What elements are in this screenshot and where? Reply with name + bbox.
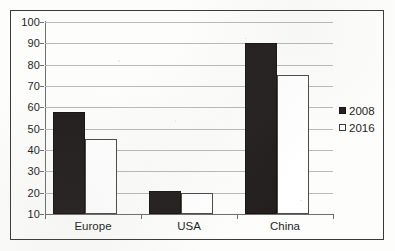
y-axis-tick <box>40 65 44 66</box>
bar-usa-2008 <box>149 191 181 214</box>
y-axis-tick <box>40 214 44 215</box>
scanned-page: 100908070605040302010 EuropeUSAChina 200… <box>0 0 395 251</box>
bar-europe-2016 <box>85 139 117 214</box>
bar-europe-2008 <box>53 112 85 214</box>
bar-china-2008 <box>245 43 277 214</box>
y-axis-tick <box>40 22 44 23</box>
x-axis-labels: EuropeUSAChina <box>45 219 334 239</box>
bar-usa-2016 <box>181 193 213 214</box>
y-axis-labels: 100908070605040302010 <box>7 22 40 214</box>
plot-area <box>45 22 333 214</box>
x-axis-label-europe: Europe <box>45 219 141 233</box>
y-axis-tick-label: 30 <box>10 166 40 177</box>
legend-label: 2016 <box>349 122 375 134</box>
y-axis-tick-label: 40 <box>10 145 40 156</box>
y-axis-tick <box>40 150 44 151</box>
y-axis-tick <box>40 193 44 194</box>
gridline-80 <box>45 65 333 66</box>
y-axis-tick <box>40 43 44 44</box>
y-axis-tick <box>40 107 44 108</box>
y-axis-tick <box>40 129 44 130</box>
hollow-square-icon <box>339 124 346 131</box>
y-axis-tick-label: 10 <box>10 209 40 220</box>
y-axis-tick-label: 80 <box>10 60 40 71</box>
legend-label: 2008 <box>349 105 375 117</box>
filled-square-icon <box>339 107 346 114</box>
bar-china-2016 <box>277 75 309 214</box>
legend-item-2008: 2008 <box>339 103 385 118</box>
y-axis-tick-label: 100 <box>10 17 40 28</box>
x-axis-label-usa: USA <box>141 219 237 233</box>
y-axis-tick <box>40 86 44 87</box>
y-axis-tick <box>40 171 44 172</box>
y-axis-tick-label: 50 <box>10 124 40 135</box>
legend-item-2016: 2016 <box>339 120 385 135</box>
y-axis-tick-label: 90 <box>10 38 40 49</box>
gridline-100 <box>45 22 333 23</box>
x-axis-label-china: China <box>237 219 333 233</box>
y-axis-tick-label: 70 <box>10 81 40 92</box>
y-axis-tick-label: 20 <box>10 188 40 199</box>
gridline-90 <box>45 43 333 44</box>
gridline-10 <box>45 214 333 215</box>
y-axis-tick-label: 60 <box>10 102 40 113</box>
chart-legend: 20082016 <box>339 103 385 137</box>
